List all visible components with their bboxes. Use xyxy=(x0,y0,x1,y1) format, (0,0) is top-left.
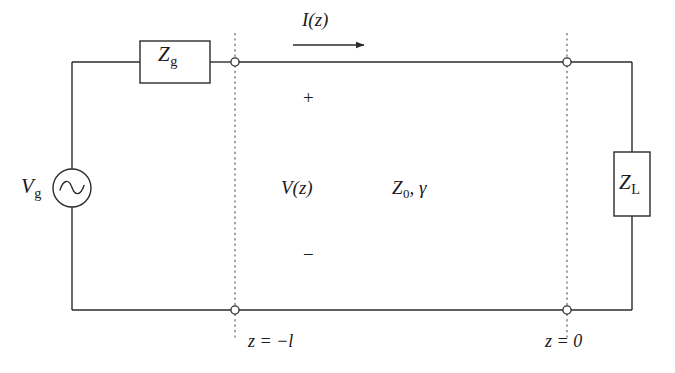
generator-impedance-subscript: g xyxy=(170,53,178,69)
source-voltage-label: Vg xyxy=(21,176,41,197)
reference-plane-right-label: z = 0 xyxy=(545,332,582,350)
circuit-schematic-svg xyxy=(0,0,675,373)
source-voltage-subscript: g xyxy=(34,185,42,201)
load-impedance-symbol: Z xyxy=(619,170,631,194)
load-impedance-label: ZL xyxy=(619,172,640,193)
source-voltage-symbol: V xyxy=(21,174,34,198)
node-terminal-top-right xyxy=(563,58,571,66)
characteristic-impedance-symbol: Z xyxy=(392,177,403,198)
current-label: I(z) xyxy=(302,10,328,29)
propagation-constant-symbol: , γ xyxy=(410,177,427,198)
load-impedance-subscript: L xyxy=(631,181,640,197)
node-terminal-bottom-left xyxy=(231,306,239,314)
circuit-diagram: Zg ZL Vg I(z) V(z) Z0, γ + − z = −l z = … xyxy=(0,0,675,373)
node-terminal-top-left xyxy=(231,58,239,66)
generator-impedance-symbol: Z xyxy=(158,42,170,66)
line-parameters-label: Z0, γ xyxy=(392,178,427,197)
voltage-label: V(z) xyxy=(281,178,313,197)
polarity-plus-label: + xyxy=(303,88,314,107)
polarity-minus-label: − xyxy=(303,245,314,264)
reference-plane-left-label: z = −l xyxy=(248,332,293,350)
generator-impedance-label: Zg xyxy=(158,44,177,65)
node-terminal-bottom-right xyxy=(563,306,571,314)
characteristic-impedance-subscript: 0 xyxy=(403,186,410,201)
